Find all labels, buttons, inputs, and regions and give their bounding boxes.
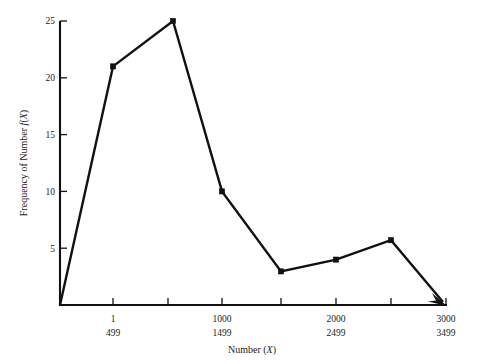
y-axis-title: Frequency of Number f(X): [18, 110, 30, 216]
data-point-5: [333, 257, 338, 262]
x-tick-label-6-top: 3000: [437, 314, 456, 324]
data-point-6: [388, 238, 393, 243]
x-axis-title-tail: ): [273, 344, 276, 356]
frequency-polygon-chart: 5 10 15 20 25 1 499 1000 1499 2000 2499 …: [0, 0, 478, 364]
x-tick-label-4-bottom: 2499: [327, 328, 346, 338]
data-point-1: [110, 64, 115, 69]
data-point-2: [170, 18, 175, 23]
data-point-4: [278, 269, 283, 274]
x-tick-label-0-top: 1: [111, 314, 116, 324]
y-axis-title-text: Frequency of Number: [18, 125, 29, 216]
y-tick-label-15: 15: [46, 130, 56, 140]
y-tick-label-25: 25: [46, 16, 56, 26]
chart-figure: 5 10 15 20 25 1 499 1000 1499 2000 2499 …: [0, 0, 478, 364]
y-tick-label-20: 20: [46, 73, 56, 83]
x-tick-label-4-top: 2000: [327, 314, 346, 324]
x-tick-label-2-bottom: 1499: [213, 328, 232, 338]
x-tick-labels: 1 499 1000 1499 2000 2499 3000 3499: [106, 314, 456, 338]
data-point-markers: [110, 18, 393, 274]
y-tick-label-10: 10: [46, 187, 56, 197]
x-axis-title-text: Number (: [228, 344, 267, 356]
x-axis-title: Number (X): [228, 344, 276, 356]
frequency-polyline: [60, 21, 443, 305]
data-point-3: [219, 189, 224, 194]
y-tick-label-5: 5: [50, 244, 55, 254]
x-tick-label-0-bottom: 499: [106, 328, 121, 338]
y-axis-title-close: ): [18, 110, 30, 113]
x-tick-label-6-bottom: 3499: [437, 328, 456, 338]
y-tick-labels: 5 10 15 20 25: [46, 16, 56, 253]
x-tick-label-2-top: 1000: [213, 314, 232, 324]
